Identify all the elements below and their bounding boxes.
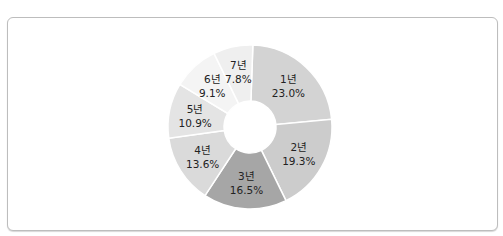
slice-category-label: 5년 bbox=[187, 103, 204, 115]
slice-percent-label: 9.1% bbox=[199, 87, 226, 99]
slice-percent-label: 13.6% bbox=[186, 158, 219, 170]
slice-category-label: 1년 bbox=[280, 73, 297, 85]
slice-category-label: 4년 bbox=[194, 144, 211, 156]
slice-category-label: 6년 bbox=[204, 73, 221, 85]
slice-percent-label: 7.8% bbox=[225, 73, 252, 85]
donut-chart: 1년23.0%2년19.3%3년16.5%4년13.6%5년10.9%6년9.1… bbox=[0, 0, 503, 236]
slice-percent-label: 23.0% bbox=[272, 87, 305, 99]
slice-percent-label: 16.5% bbox=[230, 184, 263, 196]
slice-category-label: 7년 bbox=[230, 59, 247, 71]
slice-category-label: 3년 bbox=[238, 170, 255, 182]
slice-category-label: 2년 bbox=[290, 141, 307, 153]
slice-percent-label: 10.9% bbox=[178, 117, 211, 129]
slice-percent-label: 19.3% bbox=[282, 155, 315, 167]
